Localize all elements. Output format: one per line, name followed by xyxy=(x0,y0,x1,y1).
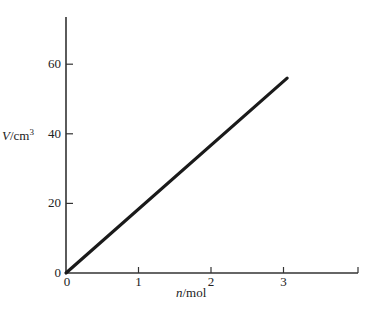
x-tick-label: 2 xyxy=(208,274,215,289)
ticks: 02040600123 xyxy=(48,56,287,289)
x-axis-unit: /mol xyxy=(183,285,207,300)
x-tick-label: 3 xyxy=(280,274,287,289)
data-series xyxy=(66,78,287,273)
x-tick-label: 1 xyxy=(135,274,142,289)
x-axis-label: n/mol xyxy=(176,285,207,300)
y-tick-label: 60 xyxy=(48,56,61,71)
x-tick-label: 0 xyxy=(64,274,71,289)
y-axis-unit-exponent: 3 xyxy=(29,127,34,137)
y-axis-unit: /cm xyxy=(10,128,30,143)
y-tick-label: 40 xyxy=(48,126,61,141)
chart: 02040600123 V/cm3 n/mol xyxy=(0,0,376,311)
y-tick-label: 20 xyxy=(48,195,61,210)
y-axis-label: V/cm3 xyxy=(2,127,34,143)
data-line xyxy=(66,78,287,273)
y-tick-label: 0 xyxy=(55,265,62,280)
